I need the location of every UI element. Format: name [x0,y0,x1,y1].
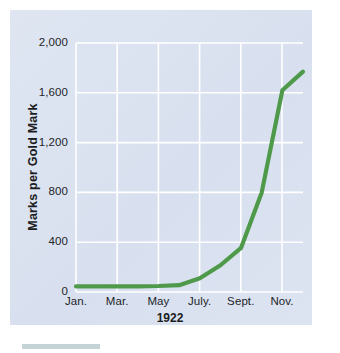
xtick-label-nov: Nov. [256,295,308,307]
y-axis-title: Marks per Gold Mark [26,87,40,247]
ytick-label-2000: 2,000 [22,36,68,48]
gridlines-group [76,43,303,292]
data-series-line [76,72,303,287]
bottom-accent-bar [22,344,100,349]
x-axis-title: 1922 [120,311,220,325]
chart-figure: 2,000 1,600 1,200 800 400 0 Jan. Mar. Ma… [0,0,340,353]
